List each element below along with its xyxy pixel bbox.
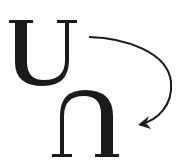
letter-u-glyph	[9, 20, 77, 86]
letter-cap-glyph	[52, 90, 119, 157]
rotation-diagram	[0, 0, 178, 164]
